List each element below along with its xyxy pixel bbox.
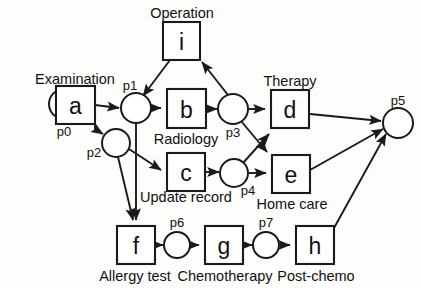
arc-e-to-p5 [310,129,383,170]
transition-c[interactable]: c [167,153,205,191]
transition-e[interactable]: e [272,155,310,193]
place-p2[interactable] [102,129,130,157]
transition-h[interactable]: h [296,226,334,264]
place-label-p6: p6 [170,215,184,230]
transition-letter-e: e [285,162,298,188]
transition-letter-g: g [218,233,231,259]
transition-letter-f: f [133,233,140,259]
place-p3[interactable] [218,94,248,124]
activity-name-a: Examination [35,71,115,87]
place-p1[interactable] [121,93,151,123]
arc-p2-to-c [129,149,161,170]
arc-p2-to-f [118,157,133,220]
place-label-p0: p0 [57,124,71,139]
activity-name-h: Post-chemo [277,268,354,284]
arc-a-to-p2 [95,120,103,134]
place-label-p1: p1 [123,78,137,93]
place-circle-p2 [102,129,130,157]
transition-b[interactable]: b [167,89,206,128]
activity-name-c: Update record [140,189,232,205]
place-label-p7: p7 [259,215,273,230]
place-p6[interactable] [164,232,190,258]
arc-p3-to-e [241,121,267,152]
place-circle-p3 [218,94,248,124]
arc-h-to-p5 [334,134,386,228]
place-label-p3: p3 [226,125,240,140]
place-circle-p1 [121,93,151,123]
arc-i-to-p1 [143,60,170,96]
transition-letter-b: b [180,97,193,123]
transition-letter-h: h [309,233,322,259]
place-circle-p5 [383,108,413,138]
transition-i[interactable]: i [163,22,200,60]
petri-net-canvas: abcdefghi p0p1p2p3p4p5p6p7ExaminationRad… [0,0,421,289]
transition-letter-c: c [180,160,192,186]
activity-name-i: Operation [150,5,214,21]
activity-name-f: Allergy test [99,268,171,284]
transition-letter-a: a [69,93,82,119]
place-circle-p6 [164,232,190,258]
activity-name-e: Home care [257,196,328,212]
place-p7[interactable] [253,232,279,258]
place-label-p4: p4 [241,183,255,198]
activity-name-b: Radiology [154,131,219,147]
transition-letter-d: d [284,97,297,123]
transition-letter-i: i [179,29,184,55]
transition-g[interactable]: g [205,226,243,264]
arc-d-to-p5 [310,114,381,121]
place-p5[interactable] [383,108,413,138]
place-label-p5: p5 [391,93,405,108]
petri-net-diagram: abcdefghi p0p1p2p3p4p5p6p7ExaminationRad… [0,0,421,289]
activity-name-d: Therapy [263,73,317,89]
place-label-p2: p2 [87,145,101,160]
arc-a-to-p1 [95,105,119,108]
transition-f[interactable]: f [117,226,155,264]
transition-a[interactable]: a [56,86,95,124]
place-circle-p7 [253,232,279,258]
activity-name-g: Chemotherapy [177,268,273,284]
transition-d[interactable]: d [271,90,309,128]
